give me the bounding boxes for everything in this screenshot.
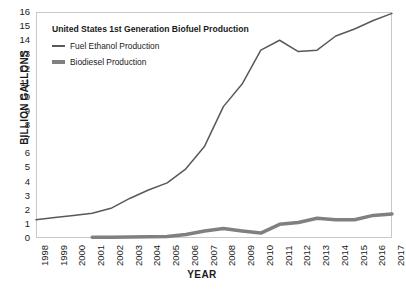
legend-swatch-line-icon (52, 45, 65, 47)
legend-label: Biodiesel Production (70, 57, 146, 67)
legend-item-fuel-ethanol: Fuel Ethanol Production (52, 41, 249, 51)
legend-item-biodiesel: Biodiesel Production (52, 57, 249, 67)
legend-swatch-line-icon (52, 60, 65, 64)
legend-label: Fuel Ethanol Production (70, 41, 159, 51)
chart-title: United States 1st Generation Biofuel Pro… (52, 24, 249, 34)
series-line (92, 214, 392, 237)
chart-legend: United States 1st Generation Biofuel Pro… (52, 24, 249, 73)
